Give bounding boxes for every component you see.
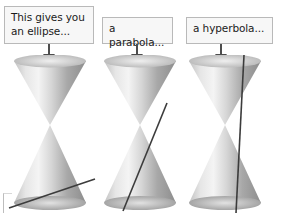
cone-lower-nappe — [14, 125, 86, 210]
conic-sections-diagram: This gives you an ellipse... a parabola.… — [0, 0, 282, 213]
cone-upper-nappe — [104, 55, 176, 125]
cone-upper-nappe — [14, 55, 86, 125]
callout-ellipse: This gives you an ellipse... — [4, 6, 94, 44]
callout-parabola: a parabola... — [102, 17, 173, 44]
double-cone-ellipse — [0, 55, 100, 213]
double-cone-parabola — [92, 55, 188, 213]
cone-lower-nappe — [189, 125, 261, 210]
callout-hyperbola: a hyperbola... — [186, 17, 273, 44]
double-cone-hyperbola — [180, 55, 282, 213]
corner-crop-mark — [3, 193, 12, 213]
cone-upper-nappe — [189, 55, 261, 125]
